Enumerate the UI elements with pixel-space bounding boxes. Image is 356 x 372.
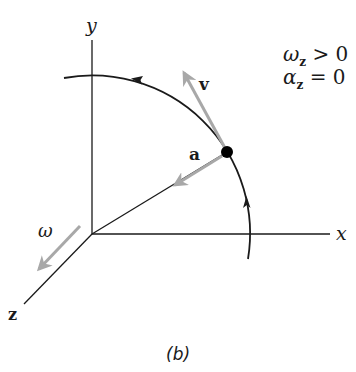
z-axis: [24, 234, 92, 304]
arc-arrowhead-lower: [243, 196, 251, 208]
z-axis-label: z: [8, 305, 17, 324]
conditions-annotation: ωz > 0 αz = 0: [283, 42, 348, 92]
omega-label: ω: [38, 220, 53, 241]
particle: [221, 146, 233, 158]
figure-caption: (b): [166, 344, 190, 364]
acceleration-label: a: [189, 144, 200, 164]
x-axis-label: x: [336, 222, 347, 244]
y-axis-label: y: [85, 14, 97, 36]
condition-alpha: αz = 0: [283, 65, 346, 92]
rotation-diagram: y x z v a ω ωz > 0 αz = 0 (b): [0, 0, 356, 372]
velocity-label: v: [198, 74, 210, 94]
